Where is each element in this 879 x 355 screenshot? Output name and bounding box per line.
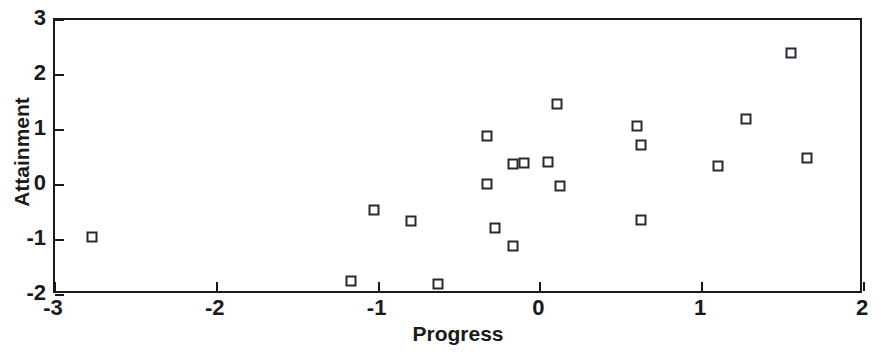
y-axis-tick: [55, 19, 64, 21]
data-point-marker: [635, 140, 646, 151]
y-axis-tick: [55, 74, 64, 76]
x-axis-tick-label: -2: [205, 297, 225, 319]
x-axis-tick: [701, 282, 703, 291]
data-point-marker: [632, 120, 643, 131]
data-point-marker: [490, 222, 501, 233]
data-point-marker: [713, 160, 724, 171]
data-point-marker: [554, 181, 565, 192]
data-point-marker: [635, 214, 646, 225]
y-axis-tick-label: -2: [26, 282, 46, 304]
data-point-marker: [507, 159, 518, 170]
y-axis-tick: [55, 129, 64, 131]
x-axis-label: Progress: [53, 322, 863, 346]
data-point-marker: [740, 114, 751, 125]
y-axis-tick: [55, 184, 64, 186]
x-axis-tick: [539, 282, 541, 291]
x-axis-tick-label: -1: [367, 297, 387, 319]
y-axis-tick-label: 0: [34, 172, 46, 194]
x-axis-tick: [216, 282, 218, 291]
x-axis-tick: [378, 282, 380, 291]
plot-area: [53, 18, 862, 293]
data-point-marker: [519, 158, 530, 169]
x-axis-tick-label: 0: [532, 297, 544, 319]
y-axis-tick-label: -1: [26, 227, 46, 249]
y-axis-label: Attainment: [10, 52, 34, 252]
data-point-marker: [346, 276, 357, 287]
data-point-marker: [786, 48, 797, 59]
x-axis-tick-label: 2: [856, 297, 868, 319]
data-point-marker: [405, 215, 416, 226]
data-point-marker: [87, 232, 98, 243]
y-axis-tick: [55, 239, 64, 241]
y-axis-tick-label: 2: [34, 62, 46, 84]
data-point-marker: [507, 240, 518, 251]
data-point-marker: [368, 204, 379, 215]
x-axis-tick: [54, 282, 56, 291]
x-axis-tick-label: -3: [43, 297, 63, 319]
scatter-chart-figure: Attainment Progress -3-2-1012-2-10123: [0, 0, 879, 355]
data-point-marker: [802, 152, 813, 163]
data-point-marker: [482, 178, 493, 189]
y-axis-tick-label: 1: [34, 117, 46, 139]
data-point-marker: [543, 156, 554, 167]
data-point-marker: [551, 98, 562, 109]
data-point-marker: [482, 130, 493, 141]
x-axis-tick: [863, 282, 865, 291]
data-point-marker: [433, 279, 444, 290]
y-axis-tick-label: 3: [34, 7, 46, 29]
x-axis-tick-label: 1: [694, 297, 706, 319]
